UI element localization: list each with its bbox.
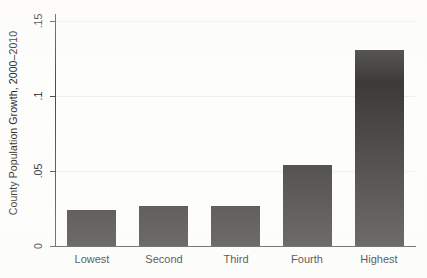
bar-fourth [283,165,332,246]
y-axis-title: County Population Growth, 2000–2010 [4,0,22,246]
bar-second [139,206,188,246]
x-label-lowest: Lowest [56,251,128,267]
bar-third [211,206,260,246]
plot-area [56,14,415,246]
bar-highest [355,50,404,246]
y-tick-label-0.05: .05 [26,164,50,178]
y-tick-label-0.15: .15 [26,14,50,28]
y-tick-label-0.1: .1 [26,89,50,103]
x-label-highest: Highest [343,251,415,267]
bar-chart-figure: County Population Growth, 2000–2010 .15 … [0,0,427,278]
x-label-second: Second [128,251,200,267]
x-axis-line [55,246,416,247]
gridline-.15 [56,21,415,22]
y-tick-label-0: 0 [26,239,50,253]
x-label-fourth: Fourth [271,251,343,267]
x-label-third: Third [200,251,272,267]
bar-lowest [67,210,116,246]
